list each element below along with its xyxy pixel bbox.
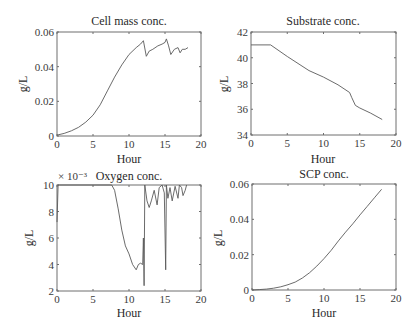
x-tick-label: 10 bbox=[319, 292, 331, 304]
ticks: 0510152000.020.040.06 bbox=[230, 178, 402, 304]
y-axis-label: g/L bbox=[22, 230, 36, 247]
x-tick-label: 15 bbox=[355, 292, 367, 304]
y-tick-label: 0.02 bbox=[230, 249, 249, 261]
figure: Cell mass conc. 0510152000.020.040.06 Ho… bbox=[0, 0, 420, 332]
series-line bbox=[57, 39, 188, 135]
x-tick-label: 0 bbox=[54, 293, 60, 305]
ticks: 05101520246810 bbox=[43, 179, 207, 305]
y-tick-label: 0.06 bbox=[230, 178, 250, 190]
y-tick-label: 40 bbox=[237, 52, 249, 64]
y-tick-label: 8 bbox=[49, 206, 55, 218]
x-tick-label: 0 bbox=[54, 138, 60, 150]
y-tick-label: 0.06 bbox=[35, 26, 55, 38]
y-tick-label: 42 bbox=[237, 26, 248, 38]
y-tick-label: 10 bbox=[43, 179, 55, 191]
y-tick-label: 2 bbox=[49, 285, 55, 297]
plot-frame bbox=[252, 184, 396, 290]
x-tick-label: 0 bbox=[248, 137, 254, 149]
x-tick-label: 5 bbox=[90, 138, 96, 150]
y-tick-label: 6 bbox=[49, 232, 55, 244]
x-tick-label: 10 bbox=[124, 293, 136, 305]
y-tick-label: 34 bbox=[237, 129, 249, 141]
y-tick-label: 0.04 bbox=[230, 213, 250, 225]
y-tick-label: 36 bbox=[237, 103, 249, 115]
y-axis-label: g/L bbox=[217, 76, 231, 93]
chart-title: Cell mass conc. bbox=[91, 14, 167, 28]
panel-scp: SCP conc. 0510152000.020.040.06 Hour g/L bbox=[211, 167, 402, 320]
x-tick-label: 0 bbox=[249, 292, 255, 304]
x-tick-label: 20 bbox=[391, 137, 403, 149]
x-axis-label: Hour bbox=[117, 306, 142, 320]
x-tick-label: 5 bbox=[285, 137, 291, 149]
x-tick-label: 10 bbox=[124, 138, 136, 150]
x-tick-label: 15 bbox=[160, 138, 172, 150]
x-axis-label: Hour bbox=[117, 152, 142, 166]
y-tick-label: 0 bbox=[244, 284, 250, 296]
plot-frame bbox=[251, 32, 396, 135]
series-line bbox=[57, 185, 187, 286]
panel-cell-mass: Cell mass conc. 0510152000.020.040.06 Ho… bbox=[16, 14, 207, 166]
panel-oxygen: Oxygen conc. × 10⁻³ 05101520246810 Hour … bbox=[22, 169, 207, 320]
y-axis-label: g/L bbox=[16, 76, 30, 93]
plot-frame bbox=[57, 185, 201, 291]
x-tick-label: 15 bbox=[354, 137, 366, 149]
x-tick-label: 20 bbox=[391, 292, 403, 304]
x-tick-label: 10 bbox=[318, 137, 330, 149]
y-tick-label: 0 bbox=[49, 130, 55, 142]
series-line bbox=[251, 45, 382, 120]
chart-title: Oxygen conc. bbox=[96, 169, 163, 183]
x-tick-label: 20 bbox=[196, 138, 208, 150]
y-tick-label: 0.02 bbox=[35, 95, 54, 107]
y-tick-label: 0.04 bbox=[35, 61, 55, 73]
ticks: 0510152000.020.040.06 bbox=[35, 26, 207, 150]
y-axis-label: g/L bbox=[211, 230, 225, 247]
chart-title: SCP conc. bbox=[299, 167, 349, 181]
x-tick-label: 15 bbox=[160, 293, 172, 305]
x-tick-label: 5 bbox=[90, 293, 96, 305]
x-axis-label: Hour bbox=[311, 152, 336, 166]
y-tick-label: 38 bbox=[237, 78, 249, 90]
panel-substrate: Substrate conc. 051015203436384042 Hour … bbox=[217, 14, 402, 166]
x-axis-label: Hour bbox=[312, 306, 337, 320]
plot-frame bbox=[57, 32, 201, 136]
series-line bbox=[252, 189, 382, 290]
y-tick-label: 4 bbox=[49, 259, 55, 271]
chart-title: Substrate conc. bbox=[286, 14, 359, 28]
y-scale-factor: × 10⁻³ bbox=[58, 170, 88, 182]
x-tick-label: 20 bbox=[196, 293, 208, 305]
x-tick-label: 5 bbox=[285, 292, 291, 304]
